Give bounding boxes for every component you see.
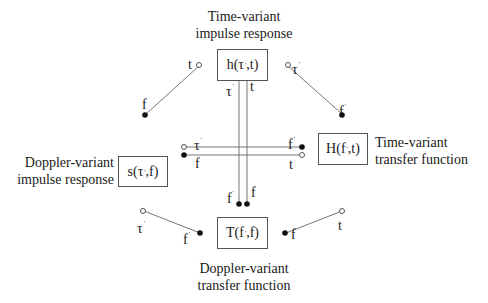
variable-label: τ [194,138,200,153]
label-vl-filled: f' [227,185,234,207]
node-doppler-variant-transfer-function: T(f',f) [217,217,268,249]
caption-right-line2: transfer function [375,151,487,168]
prime-mark: ' [299,60,300,68]
filled-node-icon [299,144,305,150]
filled-node-icon [142,112,148,118]
open-node-icon [182,145,187,150]
label-tr-open: τ' [292,56,300,78]
node-time-variant-transfer-function: H(f',t) [318,133,368,165]
node-time-variant-impulse-response: h(τ',t) [217,49,268,81]
open-node-icon [197,63,202,68]
variable-label: τ [137,221,143,236]
label-hb-left: f [195,156,200,172]
label-br-open: t [338,218,342,234]
connector-top-left [146,66,199,114]
function-rest: ,f) [246,225,259,241]
filled-node-icon [181,152,187,158]
filled-node-icon [197,230,203,236]
variable-label: f [227,191,232,206]
label-vr-open: t [250,79,254,95]
function-base: s(τ [128,164,144,180]
label-tr-filled: f' [339,98,346,120]
variable-label: f [339,104,344,119]
caption-left-line2: impulse response [2,171,114,188]
caption-left: Doppler-variant impulse response [2,154,114,188]
prime-mark: ' [144,219,145,227]
filled-node-icon [282,230,288,236]
variable-label: τ [292,62,298,77]
label-ht-right: f' [288,131,295,153]
prime-mark: ' [345,102,346,110]
caption-left-line1: Doppler-variant [2,154,114,171]
variable-label: f [288,137,293,152]
prime-mark: ' [294,135,295,143]
prime-mark: ' [201,136,202,144]
label-bl-open: τ' [137,215,145,237]
variable-label: t [338,218,342,233]
variable-label: f [251,185,256,200]
label-vr-filled: f [251,185,256,201]
prime-mark: ' [233,189,234,197]
label-br-filled: f [291,227,296,243]
label-tl-filled: f [142,97,147,113]
caption-bottom-line1: Doppler-variant [187,260,301,277]
function-rest: ,f) [146,164,159,180]
function-base: h(τ [227,57,244,73]
variable-label: τ [226,84,232,99]
variable-label: f [142,97,147,112]
caption-top-line1: Time-variant [194,8,294,25]
function-base: H(f [326,141,345,157]
caption-bottom-line2: transfer function [187,277,301,294]
caption-bottom: Doppler-variant transfer function [187,260,301,294]
function-rest: ,t) [246,57,258,73]
label-tl-open: t [188,57,192,73]
connector-bottom-left [144,211,200,233]
label-vl-open: τ' [226,78,234,100]
open-node-icon [300,153,305,158]
caption-top: Time-variant impulse response [194,8,294,42]
function-rest: ,t) [348,141,360,157]
caption-right: Time-variant transfer function [375,134,487,168]
label-ht-left: τ' [194,132,202,154]
filled-node-icon [244,201,250,207]
variable-label: f [291,227,296,242]
prime-mark: ' [233,82,234,90]
label-hb-right: t [289,157,293,173]
open-node-icon [286,63,291,68]
filled-node-icon [236,201,242,207]
caption-top-line2: impulse response [194,25,294,42]
variable-label: f [195,156,200,171]
variable-label: t [250,79,254,94]
node-doppler-variant-impulse-response: s(τ',f) [118,156,168,187]
variable-label: f [183,232,188,247]
open-node-icon [340,209,345,214]
open-node-icon [141,209,146,214]
variable-label: t [188,57,192,72]
prime-mark: ' [189,230,190,238]
variable-label: t [289,157,293,172]
caption-right-line1: Time-variant [375,134,487,151]
label-bl-filled: f' [183,226,190,248]
function-base: T(f [226,225,244,241]
